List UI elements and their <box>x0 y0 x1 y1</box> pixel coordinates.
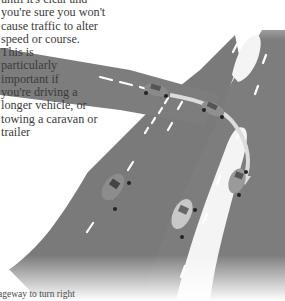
figure-caption: ageway to turn right <box>0 289 75 299</box>
text-line: trailer <box>1 126 151 139</box>
text-line: longer vehicle, or <box>1 99 151 112</box>
text-line: important if <box>1 73 151 86</box>
body-paragraph: until it's clear and you're sure you won… <box>1 0 151 139</box>
text-line: towing a caravan or <box>1 113 151 126</box>
text-line: cause traffic to alter <box>1 20 151 33</box>
text-line: This is <box>1 46 151 59</box>
text-line: speed or course. <box>1 33 151 46</box>
text-line: you're sure you won't <box>1 6 151 19</box>
text-line: particularly <box>1 59 151 72</box>
text-line: you're driving a <box>1 86 151 99</box>
